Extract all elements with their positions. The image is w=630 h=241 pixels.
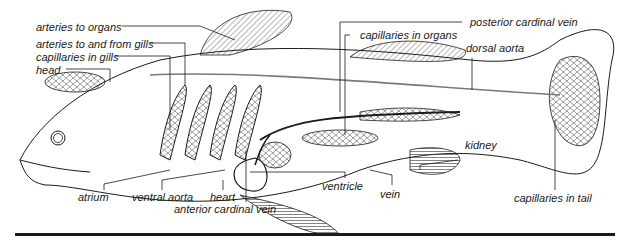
label-heart: heart bbox=[210, 191, 235, 203]
label-kidney: kidney bbox=[465, 139, 497, 151]
fish-diagram bbox=[0, 0, 630, 241]
label-ventral-aorta: ventral aorta bbox=[132, 191, 193, 203]
label-head: head bbox=[36, 64, 60, 76]
pelvic-fin bbox=[240, 195, 340, 235]
gill-arches bbox=[160, 85, 261, 160]
bottom-rule bbox=[15, 233, 615, 236]
label-capillaries-in-organs: capillaries in organs bbox=[360, 29, 457, 41]
label-atrium: atrium bbox=[78, 191, 109, 203]
label-vein: vein bbox=[380, 188, 400, 200]
liver-capillaries bbox=[259, 142, 291, 168]
label-posterior-cardinal-vein: posterior cardinal vein bbox=[470, 16, 578, 28]
label-ventricle: ventricle bbox=[322, 180, 363, 192]
organ-capillaries bbox=[302, 130, 378, 146]
label-capillaries-in-tail: capillaries in tail bbox=[514, 192, 592, 204]
label-arteries-to-and-from-gills: arteries to and from gills bbox=[36, 38, 153, 50]
label-arteries-to-organs: arteries to organs bbox=[36, 21, 122, 33]
dorsal-fin-rear bbox=[350, 41, 466, 61]
label-dorsal-aorta: dorsal aorta bbox=[466, 42, 524, 54]
tail-capillaries bbox=[549, 56, 600, 145]
label-anterior-cardinal-vein: anterior cardinal vein bbox=[174, 203, 276, 215]
label-capillaries-in-gills: capillaries in gills bbox=[36, 51, 119, 63]
